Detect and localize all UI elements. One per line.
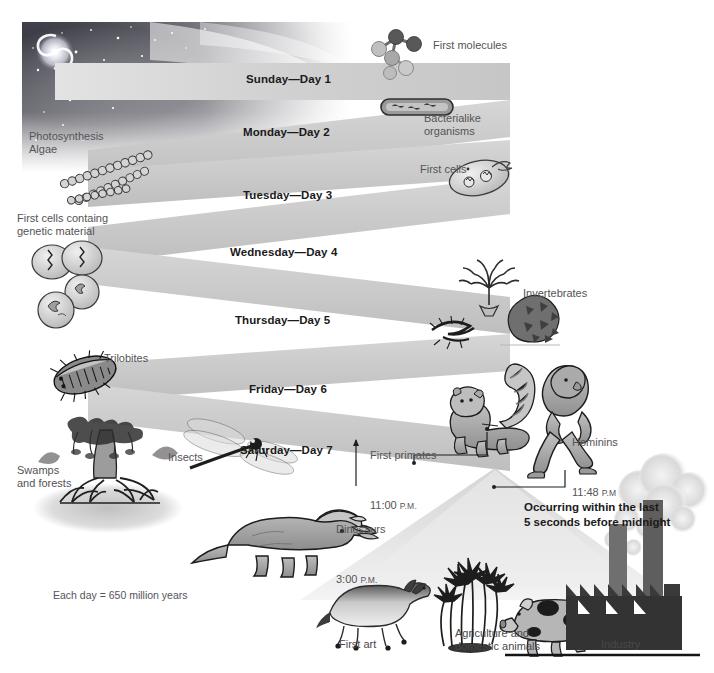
primates-time-number: 11:00 bbox=[370, 499, 400, 511]
label-bacterialike-organisms: Bacterialike organisms bbox=[424, 112, 481, 138]
last-seconds-note: Occurring within the last 5 seconds befo… bbox=[524, 500, 670, 530]
label-photosynthesis-algae: Photosynthesis Algae bbox=[29, 130, 104, 156]
scale-footnote: Each day = 650 million years bbox=[53, 589, 188, 601]
label-invertebrates: Invertebrates bbox=[523, 287, 587, 300]
band-day-7 bbox=[88, 384, 510, 471]
label-agriculture: Agriculture and domestic animals bbox=[455, 627, 540, 653]
label-first-art: First art bbox=[339, 638, 376, 651]
day-label-sunday: Sunday—Day 1 bbox=[246, 73, 331, 87]
first-primate-icon bbox=[450, 364, 535, 457]
dinosaurs-time: 3:00 P.M. bbox=[336, 573, 386, 586]
dinosaurs-time-number: 3:00 bbox=[336, 573, 360, 585]
genetic-material-cells-icon bbox=[32, 241, 102, 328]
label-first-cells: First cells bbox=[420, 163, 466, 176]
day-label-monday: Monday—Day 2 bbox=[243, 126, 330, 140]
hominins-time-number: 11:48 bbox=[572, 486, 602, 498]
label-swamps-and-forests: Swamps and forests bbox=[17, 464, 71, 490]
label-insects: Insects bbox=[168, 451, 203, 464]
label-first-primates: First primates 11:00 P.M. bbox=[370, 411, 437, 550]
hominins-time: 11:48 P.M bbox=[572, 486, 618, 499]
day-label-wednesday: Wednesday—Day 4 bbox=[230, 246, 337, 260]
primates-time-meridiem: P.M. bbox=[400, 501, 417, 511]
day-label-thursday: Thursday—Day 5 bbox=[235, 314, 330, 328]
primates-time: 11:00 P.M. bbox=[370, 499, 437, 512]
dinosaurs-time-meridiem: P.M. bbox=[360, 575, 377, 585]
day-label-tuesday: Tuesday—Day 3 bbox=[243, 189, 332, 203]
day-label-friday: Friday—Day 6 bbox=[249, 383, 327, 397]
coral-icon bbox=[508, 295, 559, 343]
label-trilobites: Trilobites bbox=[104, 352, 148, 365]
primates-name: First primates bbox=[370, 449, 437, 462]
hominins-time-meridiem: P.M bbox=[602, 488, 617, 498]
label-first-molecules: First molecules bbox=[433, 39, 507, 52]
hominins-name: Hominins bbox=[572, 436, 618, 449]
label-genetic-material: First cells containg genetic material bbox=[17, 212, 108, 238]
figure-canvas: Sunday—Day 1 Monday—Day 2 Tuesday—Day 3 … bbox=[0, 0, 714, 673]
label-industry: Industry bbox=[601, 638, 640, 651]
day-label-saturday: Saturday—Day 7 bbox=[240, 444, 333, 458]
